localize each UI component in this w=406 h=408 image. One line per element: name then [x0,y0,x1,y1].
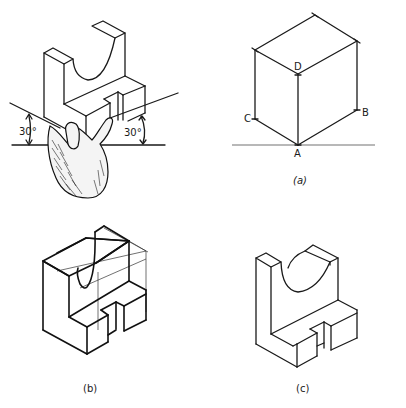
vertex-label-b: B [362,107,369,118]
left-pillar-top-c [256,253,281,267]
left-isometric-axis [10,103,60,128]
caption-b: (b) [83,383,97,394]
right-isometric-axis [110,93,178,118]
vertex-label-a: A [294,148,301,159]
hand-illustration [48,118,113,198]
box-top-face [255,15,357,74]
right-pillar-top-c [305,245,338,262]
panel-b-construction: (b) [43,226,148,394]
left-pillar-top [44,48,73,64]
isometric-figure: 30° 30° [0,0,406,408]
vertex-label-c: C [244,113,251,124]
panel-c-finished: (c) [256,245,357,394]
held-object [44,21,145,140]
semicircle-rim-c [288,251,305,268]
semicircle-cutout [73,38,115,80]
panel-hand-view: 30° 30° [10,21,178,198]
hand-shape [48,118,113,198]
construction-lines [57,228,148,330]
box-b-top [43,238,129,276]
right-angle-label: 30° [124,127,142,138]
left-angle-label: 30° [19,126,37,137]
right-pillar-top [92,21,125,38]
caption-a: (a) [293,175,307,186]
caption-c: (c) [296,383,309,394]
vertex-label-d: D [294,61,302,72]
panel-a-isometric-box: D C B A (a) [232,13,375,186]
